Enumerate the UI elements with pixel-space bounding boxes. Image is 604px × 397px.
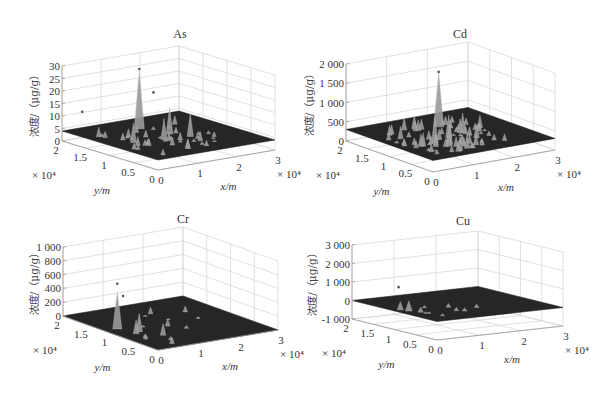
subplot-as: 051015202530012300.511.52× 10⁴× 10⁴x/my/… (28, 27, 301, 196)
z-tick-label: 0 (345, 295, 351, 307)
subplot-cd: 05001 0001 5002 000012300.511.52× 10⁴× 1… (303, 27, 581, 197)
z-axis-label: 浓度/（μg/g） (28, 248, 40, 315)
outlier-marker (122, 295, 125, 298)
y-multiplier: × 10⁴ (33, 344, 57, 356)
y-tick-label: 1 (101, 159, 107, 171)
back-walls-grid (352, 231, 563, 340)
subplot-title: Cu (456, 214, 470, 228)
outlier-marker (116, 282, 119, 285)
y-tick-label: 1.5 (360, 327, 374, 339)
y-tick-label: 0 (428, 343, 434, 355)
x-axis-label: x/m (221, 360, 238, 372)
x-multiplier: × 10⁴ (557, 168, 581, 180)
x-tick-label: 0 (437, 344, 443, 356)
x-tick-label: 1 (198, 347, 204, 359)
x-tick-label: 0 (158, 354, 164, 366)
outlier-marker (81, 111, 84, 114)
z-tick-label: 3 000 (325, 239, 350, 251)
x-tick-label: 0 (433, 176, 439, 188)
subplot-title: Cr (177, 212, 189, 226)
x-tick-label: 3 (275, 154, 281, 166)
x-tick-label: 1 (479, 339, 485, 351)
y-tick-label: 1 (386, 333, 392, 345)
z-tick-label: 200 (45, 296, 62, 308)
y-tick-label: 0.5 (403, 338, 417, 350)
x-axis-label: x/m (497, 181, 514, 193)
z-tick-label: 1 500 (319, 77, 344, 89)
x-tick-label: 0 (158, 174, 164, 186)
z-tick-label: 600 (45, 269, 62, 281)
x-multiplier: × 10⁴ (565, 344, 589, 356)
z-tick-label: 1 000 (325, 276, 350, 288)
y-tick-label: 1.5 (73, 151, 87, 163)
z-tick-label: 1 000 (36, 241, 61, 253)
y-axis-label: y/m (378, 358, 395, 370)
z-tick-label: 30 (49, 60, 61, 72)
x-multiplier: × 10⁴ (280, 348, 304, 360)
y-tick-label: 2 (54, 319, 60, 331)
y-multiplier: × 10⁴ (32, 169, 56, 181)
z-axis-label: 浓度/（μg/g） (303, 69, 315, 136)
y-axis-label: y/m (93, 184, 110, 196)
subplot-title: Cd (453, 27, 467, 41)
z-tick-label: 5 (55, 123, 61, 135)
z-tick-label: 10 (49, 110, 61, 122)
y-tick-label: 2 (337, 144, 343, 156)
y-tick-label: 0 (149, 173, 155, 185)
y-tick-label: 0 (424, 175, 430, 187)
z-tick-label: 15 (49, 98, 61, 110)
subplot-cr: 02004006008001 000012300.511.52× 10⁴× 10… (28, 212, 304, 373)
z-axis-label: 浓度/（μg/g） (28, 70, 40, 137)
x-multiplier: × 10⁴ (277, 168, 301, 180)
z-tick-label: 2 000 (325, 258, 350, 270)
y-multiplier: × 10⁴ (322, 347, 346, 359)
outlier-marker (437, 71, 440, 74)
x-tick-label: 2 (521, 335, 527, 347)
x-tick-label: 1 (197, 167, 203, 179)
z-tick-label: 20 (49, 85, 61, 97)
y-axis-label: y/m (373, 185, 390, 197)
y-tick-label: 1.5 (355, 152, 369, 164)
z-axis-label: 浓度/（μg/g） (306, 248, 318, 315)
y-tick-label: 1 (381, 160, 387, 172)
outlier-marker (397, 286, 400, 289)
x-tick-label: 3 (555, 154, 561, 166)
y-tick-label: 2 (343, 322, 349, 334)
y-tick-label: 0 (149, 353, 155, 365)
figure-canvas: 051015202530012300.511.52× 10⁴× 10⁴x/my/… (0, 0, 604, 397)
subplot-cu: -1 00001 0002 0003 000012300.511.52× 10⁴… (306, 214, 589, 370)
z-tick-label: 2 000 (319, 58, 344, 70)
y-axis-label: y/m (94, 361, 111, 373)
surface-cu (352, 287, 563, 322)
outlier-marker (152, 91, 155, 94)
z-tick-label: 400 (45, 282, 62, 294)
y-tick-label: 0.5 (121, 345, 135, 357)
z-tick-label: 1 000 (319, 97, 344, 109)
y-tick-label: 2 (53, 144, 59, 156)
y-tick-label: 0.5 (398, 167, 412, 179)
x-tick-label: 2 (515, 161, 521, 173)
y-tick-label: 1 (102, 336, 108, 348)
y-tick-label: 0.5 (121, 166, 135, 178)
z-tick-label: 800 (45, 255, 62, 267)
y-tick-label: 1.5 (74, 328, 88, 340)
x-axis-label: x/m (503, 353, 520, 365)
z-tick-label: 25 (49, 73, 61, 85)
x-tick-label: 2 (238, 341, 244, 353)
subplot-title: As (173, 27, 187, 41)
z-tick-label: 500 (328, 116, 345, 128)
outlier-marker (138, 68, 141, 71)
x-tick-label: 3 (563, 330, 569, 342)
y-multiplier: × 10⁴ (316, 169, 340, 181)
x-axis-label: x/m (220, 180, 237, 192)
x-tick-label: 2 (236, 161, 242, 173)
x-tick-label: 1 (474, 169, 480, 181)
x-tick-label: 3 (278, 334, 284, 346)
